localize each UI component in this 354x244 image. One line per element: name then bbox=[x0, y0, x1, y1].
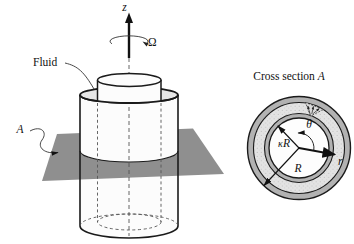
plane-label: A bbox=[15, 123, 24, 135]
figure-canvas: z Ω Fluid A Cross section A bbox=[0, 0, 354, 244]
inner-radius-label: κR bbox=[278, 137, 290, 149]
omega-label: Ω bbox=[148, 36, 157, 48]
z-axis-label: z bbox=[121, 1, 127, 13]
fluid-leader-line bbox=[65, 63, 94, 89]
z-axis-arrow bbox=[125, 13, 133, 59]
theta-label: θ bbox=[306, 118, 312, 130]
apparatus-3d-view: z Ω Fluid A bbox=[15, 1, 224, 238]
cross-section-view: Cross section A κR R r θ bbox=[248, 70, 351, 200]
inner-cylinder bbox=[98, 74, 162, 104]
diagram-svg: z Ω Fluid A Cross section A bbox=[0, 0, 354, 244]
radial-coordinate-label: r bbox=[338, 155, 343, 167]
fluid-label: Fluid bbox=[33, 56, 58, 68]
center-point bbox=[298, 147, 300, 149]
cross-section-title: Cross section A bbox=[253, 70, 326, 82]
outer-radius-label: R bbox=[293, 162, 301, 174]
inner-cylinder-top bbox=[98, 74, 162, 87]
